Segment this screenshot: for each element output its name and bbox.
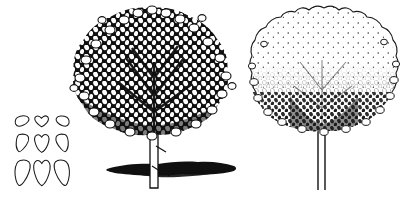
ground-shadow (106, 162, 236, 178)
leaf-cell-r1c2 (35, 116, 49, 127)
leaf-cell-r2c2 (35, 135, 49, 153)
illustration-plate (0, 0, 403, 198)
leaf-cell-r2c1 (16, 134, 28, 152)
tree-canopy (66, 0, 246, 145)
leaf-cell-r1c1 (15, 116, 29, 126)
leaf-cell-r3c1 (15, 160, 30, 185)
light-foliage-tree (246, 0, 403, 198)
tree-canopy (246, 0, 403, 140)
dark-foliage-tree (66, 0, 246, 198)
leaf-cell-r3c2 (34, 160, 50, 185)
